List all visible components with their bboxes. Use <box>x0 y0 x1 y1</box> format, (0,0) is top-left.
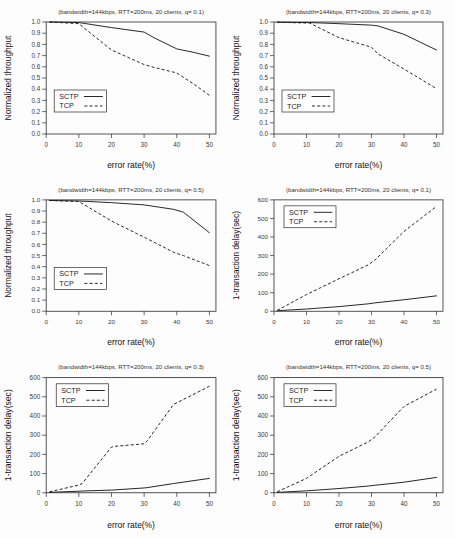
legend-label-sctp: SCTP <box>59 92 78 101</box>
x-tick-label: 30 <box>368 318 376 325</box>
y-tick-label: 0.1 <box>31 119 40 126</box>
y-tick-label: 0.5 <box>259 74 268 81</box>
chart-title: (bandwidth=144kbps, RTT=200ms, 20 client… <box>286 363 431 370</box>
y-axis-title: 1-transaction delay(sec) <box>3 389 13 481</box>
y-tick-label: 0.0 <box>259 130 268 137</box>
x-tick-label: 0 <box>272 141 276 148</box>
x-axis-title: error rate(%) <box>107 520 155 530</box>
x-tick-label: 40 <box>173 141 181 148</box>
x-axis-title: error rate(%) <box>335 520 383 530</box>
x-axis-title: error rate(%) <box>335 337 383 347</box>
legend-label-tcp: TCP <box>59 279 74 288</box>
x-tick-label: 50 <box>206 318 214 325</box>
x-tick-label: 20 <box>335 141 343 148</box>
series-line-sctp <box>277 22 436 50</box>
y-tick-label: 0.5 <box>31 252 40 259</box>
x-tick-label: 20 <box>108 318 116 325</box>
chart-legend: SCTPTCP <box>284 206 336 228</box>
x-axis: 01020304050 <box>272 311 440 325</box>
y-tick-label: 0.1 <box>31 296 40 303</box>
x-tick-label: 40 <box>400 318 408 325</box>
x-axis: 01020304050 <box>44 493 213 507</box>
y-tick-label: 500 <box>258 215 269 222</box>
y-tick-label: 0.7 <box>31 52 40 59</box>
y-axis: 0100200300400500600 <box>258 374 274 496</box>
legend-label-sctp: SCTP <box>59 269 78 278</box>
x-tick-label: 10 <box>303 318 311 325</box>
x-tick-label: 30 <box>368 141 376 148</box>
series-line-sctp <box>49 22 209 56</box>
x-tick-label: 20 <box>336 500 343 507</box>
y-tick-label: 100 <box>30 470 41 477</box>
chart-panel-delay-q01: (bandwidth=144kbps, RTT=200ms, 20 client… <box>228 178 455 355</box>
y-tick-label: 0.8 <box>31 218 40 225</box>
chart-panel-throughput-q05: (bandwidth=144kbps, RTT=200ms, 20 client… <box>0 178 228 355</box>
x-tick-label: 30 <box>141 318 149 325</box>
x-tick-label: 0 <box>44 141 48 148</box>
chart-legend: SCTPTCP <box>56 384 108 407</box>
y-tick-label: 1.0 <box>31 18 40 25</box>
y-tick-label: 0.9 <box>259 29 268 36</box>
y-tick-label: 0 <box>265 489 269 496</box>
series-line-tcp <box>49 200 209 265</box>
y-tick-label: 200 <box>258 451 269 458</box>
chart-legend: SCTPTCP <box>54 267 106 289</box>
x-tick-label: 0 <box>272 318 276 325</box>
y-tick-label: 0.7 <box>31 230 40 237</box>
y-tick-label: 600 <box>30 374 41 381</box>
x-axis: 01020304050 <box>44 311 213 325</box>
series-line-tcp <box>49 22 209 95</box>
legend-label-sctp: SCTP <box>289 209 308 217</box>
x-tick-label: 10 <box>303 500 310 507</box>
x-tick-label: 10 <box>303 141 311 148</box>
y-tick-label: 300 <box>30 431 41 438</box>
x-tick-label: 20 <box>108 500 115 507</box>
y-tick-label: 0.6 <box>31 63 40 70</box>
y-tick-label: 0 <box>37 489 41 496</box>
y-tick-label: 0.1 <box>259 119 268 126</box>
y-tick-label: 400 <box>258 412 269 419</box>
y-tick-label: 300 <box>258 252 269 259</box>
x-tick-label: 10 <box>75 318 83 325</box>
y-tick-label: 1.0 <box>259 18 268 25</box>
y-tick-label: 0.3 <box>31 274 40 281</box>
legend-label-sctp: SCTP <box>289 386 308 395</box>
y-tick-label: 0.4 <box>31 263 40 270</box>
legend-label-tcp: TCP <box>289 396 304 405</box>
y-axis: 0100200300400500600 <box>258 196 274 314</box>
legend-label-tcp: TCP <box>287 102 302 111</box>
y-axis-title: 1-transaction delay(sec) <box>231 211 241 300</box>
chart-title: (bandwidth=144kbps, RTT=200ms, 20 client… <box>58 8 204 15</box>
x-tick-label: 40 <box>401 500 408 507</box>
y-tick-label: 0.0 <box>31 307 40 314</box>
series-line-sctp <box>277 296 436 311</box>
y-tick-label: 0.2 <box>31 108 40 115</box>
x-axis: 01020304050 <box>44 134 213 148</box>
legend-label-sctp: SCTP <box>61 386 80 395</box>
y-tick-label: 500 <box>30 393 41 400</box>
y-tick-label: 0.9 <box>31 207 40 214</box>
chart-panel-throughput-q01: (bandwidth=144kbps, RTT=200ms, 20 client… <box>0 0 228 178</box>
y-tick-label: 0.3 <box>259 97 268 104</box>
y-tick-label: 0.9 <box>31 29 40 36</box>
chart-title: (bandwidth=144kbps, RTT=200ms, 20 client… <box>286 8 431 15</box>
y-tick-label: 0.2 <box>259 108 268 115</box>
x-tick-label: 50 <box>433 318 441 325</box>
y-axis: 0.00.10.20.30.40.50.60.70.80.91.0 <box>31 196 46 314</box>
series-line-sctp <box>49 478 209 492</box>
x-tick-label: 0 <box>272 500 276 507</box>
y-tick-label: 200 <box>30 451 41 458</box>
x-tick-label: 50 <box>433 500 440 507</box>
chart-panel-delay-q05: (bandwidth=144kbps, RTT=200ms, 20 client… <box>228 355 455 538</box>
y-tick-label: 0.3 <box>31 97 40 104</box>
y-tick-label: 0.2 <box>31 285 40 292</box>
y-tick-label: 0.6 <box>31 241 40 248</box>
x-tick-label: 40 <box>173 500 180 507</box>
chart-title: (bandwidth=144kbps, RTT=200ms, 20 client… <box>58 186 203 193</box>
y-tick-label: 0.4 <box>31 85 40 92</box>
chart-panel-delay-q03: (bandwidth=144kbps, RTT=200ms, 20 client… <box>0 355 228 538</box>
y-tick-label: 1.0 <box>31 196 40 203</box>
x-tick-label: 50 <box>206 500 213 507</box>
y-tick-label: 0.8 <box>259 41 268 48</box>
x-tick-label: 50 <box>433 141 441 148</box>
